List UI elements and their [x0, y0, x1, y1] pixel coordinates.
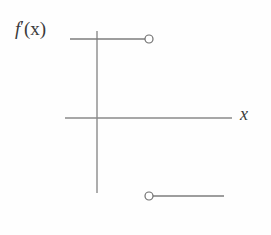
- lower-branch-open-circle: [145, 192, 153, 200]
- derivative-graph-figure: f′(x) x: [0, 0, 271, 235]
- y-axis-label-argument: (x): [24, 18, 46, 39]
- y-axis-label: f′(x): [15, 19, 46, 38]
- upper-branch-open-circle: [145, 35, 153, 43]
- x-axis-label: x: [240, 105, 248, 123]
- prime-symbol: ′: [20, 17, 24, 36]
